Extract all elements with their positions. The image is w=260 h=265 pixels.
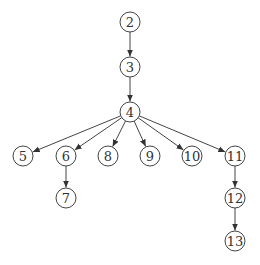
tree-node-10: 10 bbox=[182, 146, 202, 166]
tree-node-12: 12 bbox=[225, 188, 245, 208]
edge-4-to-8 bbox=[113, 121, 126, 147]
edge-4-to-6 bbox=[75, 118, 122, 150]
node-label: 2 bbox=[126, 15, 134, 30]
node-label: 11 bbox=[227, 149, 244, 164]
node-label: 13 bbox=[227, 234, 244, 249]
tree-node-4: 4 bbox=[120, 102, 140, 122]
tree-node-3: 3 bbox=[120, 57, 140, 77]
tree-node-7: 7 bbox=[56, 188, 76, 208]
node-label: 5 bbox=[19, 149, 27, 164]
node-label: 10 bbox=[184, 149, 201, 164]
tree-node-11: 11 bbox=[225, 146, 245, 166]
tree-node-13: 13 bbox=[225, 231, 245, 251]
node-label: 7 bbox=[62, 191, 70, 206]
edge-4-to-9 bbox=[134, 121, 146, 146]
nodes-layer: 2345689101171213 bbox=[13, 12, 245, 251]
tree-node-9: 9 bbox=[140, 146, 160, 166]
tree-diagram-svg: 2345689101171213 bbox=[0, 0, 260, 265]
node-label: 12 bbox=[227, 191, 244, 206]
node-label: 3 bbox=[126, 60, 134, 75]
node-label: 4 bbox=[126, 105, 134, 120]
tree-node-2: 2 bbox=[120, 12, 140, 32]
tree-node-5: 5 bbox=[13, 146, 33, 166]
tree-node-8: 8 bbox=[98, 146, 118, 166]
node-label: 8 bbox=[104, 149, 112, 164]
tree-diagram: 2345689101171213 bbox=[0, 0, 260, 265]
tree-node-6: 6 bbox=[56, 146, 76, 166]
node-label: 9 bbox=[146, 149, 154, 164]
node-label: 6 bbox=[62, 149, 70, 164]
